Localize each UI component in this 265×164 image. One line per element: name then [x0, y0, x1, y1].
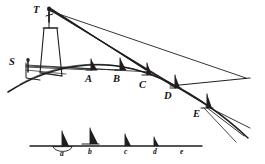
observer-head-t: [47, 7, 51, 12]
earth-curve-group: [8, 64, 248, 138]
lower-scene-group: [30, 128, 202, 152]
diagram-canvas: [0, 0, 265, 164]
label-D: D: [164, 91, 172, 102]
ship-E-sail: [207, 94, 212, 108]
label-T: T: [33, 5, 39, 16]
sight-line-group-t: [50, 8, 246, 106]
ship-E: [201, 94, 213, 108]
convergence-lines-e: [204, 106, 250, 142]
label-d: d: [153, 148, 157, 156]
label-A: A: [85, 74, 92, 85]
sight-line-t-to-e: [50, 10, 208, 106]
earth-curvature-line: [8, 65, 248, 138]
ship-D-sail: [175, 75, 180, 88]
label-e: e: [180, 148, 183, 156]
ship-d-sail: [154, 137, 159, 146]
label-B: B: [113, 74, 120, 85]
label-b: b: [88, 148, 92, 156]
figure-root: T S A B C D E a b c d e: [0, 0, 265, 164]
label-S: S: [9, 57, 15, 68]
ship-b-sail: [90, 128, 98, 144]
ship-B: [115, 58, 126, 70]
label-c: c: [124, 148, 127, 156]
label-C: C: [139, 80, 146, 91]
ship-c-sail: [125, 134, 131, 146]
label-a: a: [60, 150, 64, 158]
convergence-line-e-2: [206, 107, 244, 136]
ship-C-sail: [147, 63, 152, 75]
horizon-reference-line: [170, 78, 250, 86]
ship-a-sail: [62, 131, 69, 146]
ship-B-sail: [120, 58, 126, 70]
ship-b: [82, 128, 99, 144]
ship-c: [125, 134, 131, 146]
ship-d: [154, 137, 159, 146]
label-E: E: [193, 109, 200, 120]
